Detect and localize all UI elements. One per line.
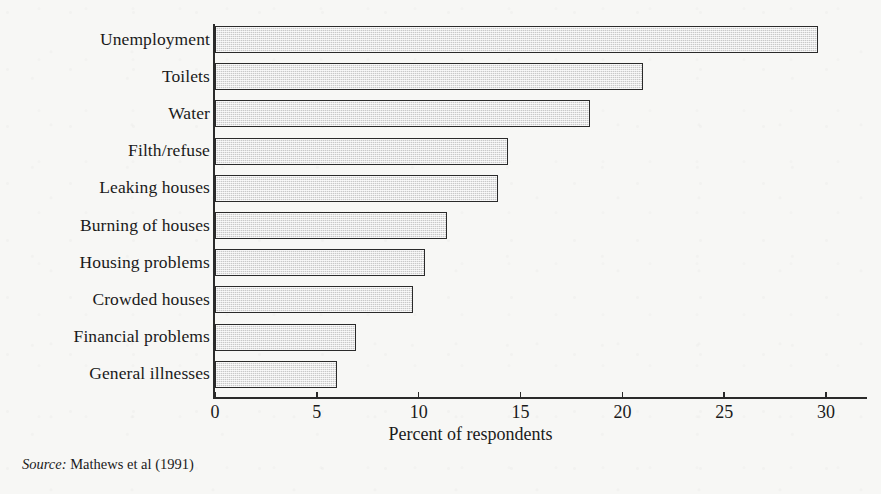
- category-label-2: Water: [0, 105, 210, 123]
- x-axis-line: [213, 397, 867, 399]
- bar-1: [215, 63, 643, 90]
- bar-8: [215, 324, 356, 351]
- x-axis-title: Percent of respondents: [0, 425, 881, 443]
- x-tick-3: [520, 392, 522, 399]
- category-label-5: Burning of houses: [0, 217, 210, 235]
- source-note-text: Mathews et al (1991): [70, 456, 194, 472]
- x-tick-5: [723, 392, 725, 399]
- source-note: Source: Mathews et al (1991): [22, 457, 194, 472]
- x-tick-label-6: 30: [806, 403, 846, 421]
- category-label-9: General illnesses: [0, 365, 210, 383]
- category-label-7: Crowded houses: [0, 291, 210, 309]
- bar-3: [215, 138, 508, 165]
- category-label-8: Financial problems: [0, 328, 210, 346]
- bar-2: [215, 100, 590, 127]
- x-tick-label-0: 0: [195, 403, 235, 421]
- bar-0: [215, 26, 818, 53]
- y-axis-line: [213, 24, 215, 399]
- category-label-1: Toilets: [0, 68, 210, 86]
- bar-5: [215, 212, 447, 239]
- bar-7: [215, 286, 413, 313]
- category-label-3: Filth/refuse: [0, 142, 210, 160]
- x-tick-2: [418, 392, 420, 399]
- x-tick-label-1: 5: [297, 403, 337, 421]
- x-tick-6: [825, 392, 827, 399]
- x-tick-0: [214, 392, 216, 399]
- x-tick-label-2: 10: [399, 403, 439, 421]
- bar-6: [215, 249, 425, 276]
- category-label-6: Housing problems: [0, 254, 210, 272]
- x-tick-label-3: 15: [501, 403, 541, 421]
- x-tick-4: [622, 392, 624, 399]
- x-tick-label-4: 20: [602, 403, 642, 421]
- bar-chart-plot: Unemployment Toilets Water Filth/refuse …: [0, 0, 881, 494]
- category-label-0: Unemployment: [0, 31, 210, 49]
- bar-4: [215, 175, 498, 202]
- bar-9: [215, 361, 337, 388]
- x-tick-1: [316, 392, 318, 399]
- figure-root: Unemployment Toilets Water Filth/refuse …: [0, 0, 881, 494]
- source-note-label: Source:: [22, 456, 67, 472]
- category-label-4: Leaking houses: [0, 179, 210, 197]
- x-tick-label-5: 25: [704, 403, 744, 421]
